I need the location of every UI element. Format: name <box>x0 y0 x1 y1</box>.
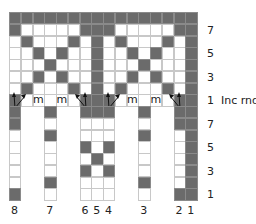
dark-cell <box>185 47 197 59</box>
light-cell <box>68 47 80 59</box>
dark-cell <box>9 188 21 200</box>
light-cell <box>138 36 150 48</box>
dark-cell <box>185 141 197 153</box>
light-cell <box>127 59 139 71</box>
make-one-symbol: m <box>127 94 139 106</box>
row-label: 1 <box>207 189 214 201</box>
dark-cell <box>185 118 197 130</box>
dark-cell <box>103 24 115 36</box>
light-cell <box>138 24 150 36</box>
dark-cell <box>103 141 115 153</box>
light-cell <box>9 130 21 142</box>
dark-cell <box>56 12 68 24</box>
row-label: 3 <box>207 166 214 178</box>
light-cell <box>80 188 92 200</box>
dark-cell <box>91 59 103 71</box>
light-cell <box>103 118 115 130</box>
light-cell <box>9 36 21 48</box>
dark-cell <box>44 12 56 24</box>
dark-cell <box>115 12 127 24</box>
dark-cell <box>185 106 197 118</box>
light-cell <box>9 153 21 165</box>
light-cell <box>21 71 33 83</box>
light-cell <box>44 83 56 95</box>
dark-cell <box>138 12 150 24</box>
dark-cell <box>150 12 162 24</box>
light-cell <box>44 71 56 83</box>
dark-cell <box>150 71 162 83</box>
light-cell <box>138 141 150 153</box>
knitting-chart: 7531 Inc rndmmmm876543217531 <box>0 0 256 224</box>
dark-cell <box>127 47 139 59</box>
row-label: 7 <box>207 25 214 37</box>
light-cell <box>80 59 92 71</box>
dark-cell <box>68 12 80 24</box>
column-label: 1 <box>187 205 194 217</box>
dark-cell <box>150 47 162 59</box>
column-label: 5 <box>93 205 100 217</box>
light-cell <box>174 59 186 71</box>
dark-cell <box>91 106 103 118</box>
row-label: 3 <box>207 72 214 84</box>
light-cell <box>150 59 162 71</box>
light-cell <box>174 165 186 177</box>
dark-cell <box>91 12 103 24</box>
light-cell <box>174 47 186 59</box>
light-cell <box>44 118 56 130</box>
light-cell <box>80 130 92 142</box>
dark-cell <box>127 71 139 83</box>
light-cell <box>127 24 139 36</box>
dark-cell <box>162 36 174 48</box>
light-cell <box>103 71 115 83</box>
light-cell <box>115 59 127 71</box>
light-cell <box>9 59 21 71</box>
light-cell <box>91 141 103 153</box>
dark-cell <box>185 59 197 71</box>
light-cell <box>162 71 174 83</box>
light-cell <box>9 71 21 83</box>
row-label: 1 Inc rnd <box>207 95 256 107</box>
dark-cell <box>174 106 186 118</box>
dark-cell <box>33 12 45 24</box>
row-label: 7 <box>207 119 214 131</box>
dark-cell <box>44 130 56 142</box>
dark-cell <box>138 59 150 71</box>
dark-cell <box>174 118 186 130</box>
light-cell <box>9 165 21 177</box>
dark-cell <box>185 165 197 177</box>
dark-cell <box>33 71 45 83</box>
dark-cell <box>127 12 139 24</box>
column-label: 4 <box>105 205 112 217</box>
dark-cell <box>44 177 56 189</box>
light-cell <box>80 47 92 59</box>
light-cell <box>150 24 162 36</box>
row-label: 5 <box>207 48 214 60</box>
light-cell <box>91 130 103 142</box>
dark-cell <box>80 141 92 153</box>
light-cell <box>56 59 68 71</box>
dark-cell <box>91 36 103 48</box>
light-cell <box>103 177 115 189</box>
light-cell <box>44 188 56 200</box>
light-cell <box>21 59 33 71</box>
light-cell <box>138 83 150 95</box>
dark-cell <box>80 165 92 177</box>
dark-cell <box>162 12 174 24</box>
dark-cell <box>138 177 150 189</box>
light-cell <box>91 177 103 189</box>
light-cell <box>9 177 21 189</box>
dark-cell <box>21 12 33 24</box>
light-cell <box>68 24 80 36</box>
light-cell <box>162 59 174 71</box>
light-cell <box>115 24 127 36</box>
light-cell <box>174 36 186 48</box>
dark-cell <box>91 24 103 36</box>
column-label: 7 <box>46 205 53 217</box>
dark-cell <box>68 36 80 48</box>
light-cell <box>9 141 21 153</box>
column-label: 6 <box>82 205 89 217</box>
light-cell <box>44 153 56 165</box>
light-cell <box>174 153 186 165</box>
dark-cell <box>44 106 56 118</box>
dark-cell <box>44 59 56 71</box>
